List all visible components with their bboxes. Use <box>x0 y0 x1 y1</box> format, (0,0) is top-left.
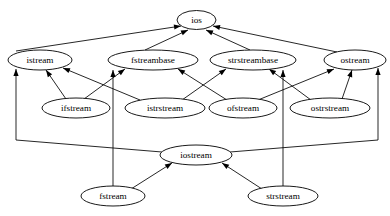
arrowhead-icon <box>13 69 18 76</box>
edge-strstream-to-iostream <box>222 163 262 189</box>
edge-fstreambase-to-ios <box>145 30 188 50</box>
node-label-istrstream: istrstream <box>147 103 183 113</box>
graph-canvas: iosistreamfstreambasestrstreambaseostrea… <box>0 0 390 216</box>
arrowhead-icon <box>347 70 352 77</box>
node-ostrstream[interactable]: ostrstream <box>290 98 370 118</box>
arrowhead-icon <box>269 69 276 75</box>
node-iostream[interactable]: iostream <box>160 145 232 165</box>
arrowhead-icon <box>118 69 125 75</box>
arrowhead-icon <box>219 69 226 75</box>
arrowhead-icon <box>213 25 220 30</box>
arrowhead-icon <box>206 30 213 35</box>
node-ifstream[interactable]: ifstream <box>42 98 110 118</box>
edge-fstream-to-fstreambase <box>110 70 115 187</box>
node-label-ofstream: ofstream <box>227 103 259 113</box>
class-hierarchy-diagram: iosistreamfstreambasestrstreambaseostrea… <box>0 0 390 216</box>
node-istrstream[interactable]: istrstream <box>125 98 205 118</box>
arrowhead-icon <box>375 68 380 75</box>
node-label-ostream: ostream <box>340 55 369 65</box>
edge-ofstream-to-ostream <box>258 69 334 100</box>
node-ios[interactable]: ios <box>177 11 216 30</box>
node-label-fstreambase: fstreambase <box>131 55 175 65</box>
node-ostream[interactable]: ostream <box>324 50 386 70</box>
node-label-strstreambase: strstreambase <box>228 55 278 65</box>
node-ofstream[interactable]: ofstream <box>209 98 277 118</box>
node-fstreambase[interactable]: fstreambase <box>108 50 198 70</box>
edge-strstreambase-to-ios <box>206 30 250 50</box>
node-label-ostrstream: ostrstream <box>311 103 349 113</box>
node-label-ifstream: ifstream <box>61 103 91 113</box>
node-label-iostream: iostream <box>180 150 212 160</box>
arrowhead-icon <box>222 163 229 169</box>
nodes-layer: iosistreamfstreambasestrstreambaseostrea… <box>8 11 386 207</box>
edge-fstream-to-iostream <box>131 163 172 189</box>
arrowhead-icon <box>181 30 188 35</box>
node-strstreambase[interactable]: strstreambase <box>210 50 296 70</box>
edge-ostream-to-ios <box>213 25 337 52</box>
node-label-ios: ios <box>191 15 202 25</box>
node-istream[interactable]: istream <box>8 50 72 70</box>
arrowhead-icon <box>63 68 70 73</box>
arrowhead-icon <box>280 70 285 77</box>
edge-ostrstream-to-ostream <box>342 70 352 99</box>
node-strstream[interactable]: strstream <box>248 186 318 206</box>
arrowhead-icon <box>327 69 334 74</box>
arrowhead-icon <box>165 163 172 169</box>
edge-istream-to-ios <box>16 24 181 51</box>
arrowhead-icon <box>178 69 185 75</box>
edge-ostrstream-to-strstreambase <box>269 69 311 100</box>
edge-ifstream-to-fstreambase <box>84 69 125 99</box>
edge-istrstream-to-istream <box>63 68 140 100</box>
node-label-strstream: strstream <box>266 191 300 201</box>
arrowhead-icon <box>110 70 115 77</box>
node-label-istream: istream <box>26 55 53 65</box>
edge-strstream-to-strstreambase <box>280 70 285 187</box>
arrowhead-icon <box>46 70 52 77</box>
node-fstream[interactable]: fstream <box>81 186 145 206</box>
edge-ifstream-to-istream <box>46 70 66 99</box>
node-label-fstream: fstream <box>99 191 127 201</box>
